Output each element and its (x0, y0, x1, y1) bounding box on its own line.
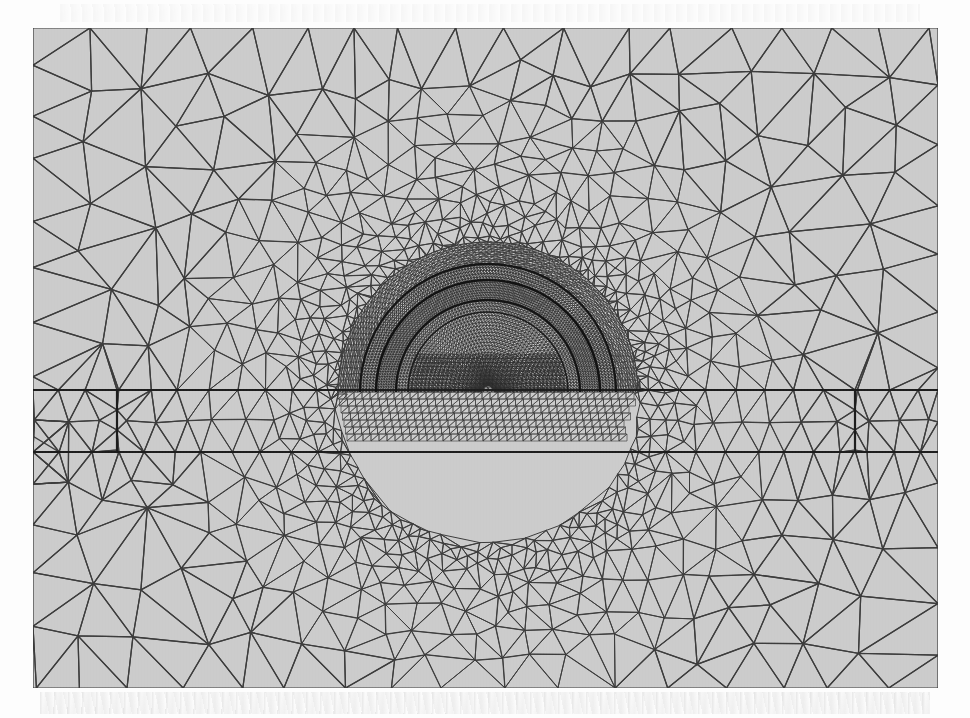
scan-artifact-bottom (40, 692, 930, 714)
mesh-geometry (33, 28, 938, 688)
scan-artifact-top (60, 4, 920, 22)
mesh-canvas (33, 28, 938, 688)
fem-mesh-svg (33, 28, 938, 688)
figure-root (0, 0, 970, 718)
